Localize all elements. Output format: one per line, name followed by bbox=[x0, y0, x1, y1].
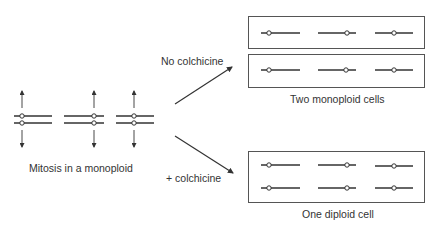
arrow-plus-colchicine bbox=[175, 136, 233, 173]
label-one-diploid-cell: One diploid cell bbox=[302, 208, 374, 220]
label-mitosis-monoploid: Mitosis in a monoploid bbox=[29, 162, 133, 174]
chromatid-pair-2 bbox=[64, 91, 104, 147]
chromatid-pair-1 bbox=[14, 91, 52, 147]
label-no-colchicine: No colchicine bbox=[161, 55, 223, 67]
diploid-cell bbox=[249, 152, 425, 203]
diagram-canvas bbox=[0, 0, 440, 231]
monoploid-cell-2 bbox=[249, 55, 425, 88]
label-two-monoploid-cells: Two monoploid cells bbox=[290, 93, 385, 105]
chromatid-pair-3 bbox=[116, 91, 154, 147]
monoploid-cell-1 bbox=[249, 17, 425, 49]
arrow-no-colchicine bbox=[175, 67, 232, 104]
monoploid-mitosis-group bbox=[14, 91, 154, 147]
label-plus-colchicine: + colchicine bbox=[166, 172, 221, 184]
